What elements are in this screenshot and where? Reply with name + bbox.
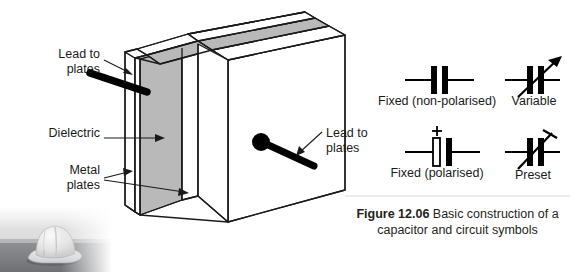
symbol-label-fixed-polarised: Fixed (polarised) <box>383 166 491 180</box>
front-slab-left-strip <box>198 44 228 222</box>
label-lead-to-plates-right: Lead to plates <box>326 126 388 155</box>
preset-tee-bar <box>543 130 557 138</box>
figure-caption: Figure 12.06 Basic construction of a cap… <box>345 206 570 238</box>
rear-metal-plate-left-face <box>125 52 135 212</box>
polarised-solid-plate <box>446 138 452 166</box>
label-lead-to-plates-left: Lead to plates <box>14 47 100 76</box>
dielectric-left-face <box>140 48 182 215</box>
polarised-hollow-plate <box>433 138 440 166</box>
symbol-label-preset: Preset <box>500 168 566 182</box>
symbol-label-variable: Variable <box>498 94 570 108</box>
symbol-label-fixed-non-polarised: Fixed (non-polarised) <box>378 94 496 108</box>
label-metal-plates: Metal plates <box>14 163 100 192</box>
label-dielectric: Dielectric <box>14 126 100 141</box>
polarised-plus-sign <box>432 126 442 136</box>
figure-page: Lead to plates Dielectric Metal plates L… <box>0 0 577 272</box>
gap-left <box>135 58 140 215</box>
figure-number: Figure 12.06 <box>356 207 429 221</box>
symbol-fixed-non-polarised <box>405 66 474 94</box>
front-metal-plate-left-face <box>182 44 198 200</box>
variable-arrow-shaft <box>518 60 557 97</box>
symbol-preset <box>505 130 560 169</box>
symbol-fixed-polarised <box>405 126 480 166</box>
symbol-variable <box>505 56 562 97</box>
